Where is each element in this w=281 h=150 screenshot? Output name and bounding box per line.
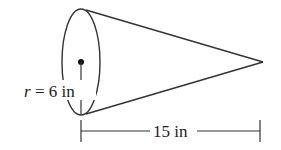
cone-top-edge [86,10,263,62]
cone-bottom-edge [86,62,263,114]
cone-diagram: r = 6 in 15 in [0,0,281,150]
radius-label: r = 6 in [24,82,75,101]
length-label: 15 in [153,122,188,141]
cone-figure: r = 6 in 15 in [0,0,281,150]
